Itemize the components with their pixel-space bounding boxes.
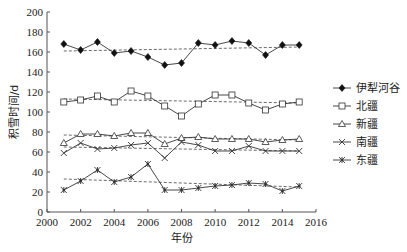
filled-diamond-marker-icon (61, 41, 67, 48)
y-tick-label: 60 (32, 146, 44, 158)
x-tick-label: 2012 (238, 216, 260, 228)
x-cross-marker-icon (162, 155, 168, 161)
y-tick-label: 160 (27, 46, 44, 58)
asterisk-marker-icon (279, 188, 285, 194)
open-triangle-marker-icon (60, 140, 67, 146)
legend-item: 东疆 (333, 154, 378, 167)
open-square-marker-icon (339, 103, 345, 109)
x-tick-label: 2004 (103, 216, 126, 228)
filled-diamond-marker-icon (128, 48, 134, 55)
filled-diamond-marker-icon (263, 52, 269, 59)
filled-diamond-marker-icon (246, 40, 252, 47)
legend-label: 新疆 (356, 117, 378, 131)
open-square-marker-icon (94, 93, 100, 99)
y-axis-title: 积雪时间/d (8, 85, 21, 140)
open-triangle-marker-icon (144, 130, 151, 136)
open-square-marker-icon (195, 101, 201, 107)
open-square-marker-icon (78, 97, 84, 103)
filled-diamond-marker-icon (78, 47, 84, 54)
y-tick-label: 40 (32, 166, 44, 178)
asterisk-marker-icon (94, 167, 100, 173)
asterisk-marker-icon (296, 183, 302, 189)
open-square-marker-icon (145, 93, 151, 99)
open-square-marker-icon (61, 99, 67, 105)
legend-item: 新疆 (333, 117, 378, 131)
open-triangle-marker-icon (128, 130, 135, 136)
open-square-marker-icon (246, 100, 252, 106)
x-tick-label: 2010 (204, 216, 227, 228)
open-triangle-marker-icon (339, 121, 346, 127)
y-tick-label: 80 (32, 126, 44, 138)
y-tick-label: 200 (27, 6, 44, 18)
legend-item: 北疆 (333, 100, 378, 113)
y-tick-label: 0 (38, 206, 44, 218)
asterisk-marker-icon (145, 161, 151, 167)
asterisk-marker-icon (78, 178, 84, 184)
x-cross-marker-icon (61, 150, 67, 156)
open-triangle-marker-icon (77, 131, 84, 137)
open-square-marker-icon (128, 88, 134, 94)
x-tick-label: 2002 (70, 216, 92, 228)
x-cross-marker-icon (246, 143, 252, 149)
open-square-marker-icon (263, 107, 269, 113)
x-tick-label: 2014 (271, 216, 294, 228)
filled-diamond-marker-icon (229, 38, 235, 45)
trend-line (64, 99, 299, 103)
legend: 伊犁河谷北疆新疆南疆东疆 (333, 81, 400, 167)
x-cross-marker-icon (78, 140, 84, 146)
data-series (60, 38, 302, 195)
open-triangle-marker-icon (94, 131, 101, 137)
asterisk-marker-icon (61, 187, 67, 193)
filled-diamond-marker-icon (162, 62, 168, 69)
y-tick-label: 20 (32, 186, 44, 198)
x-tick-label: 2006 (137, 216, 160, 228)
open-square-marker-icon (296, 99, 302, 105)
open-triangle-marker-icon (195, 134, 202, 140)
open-triangle-marker-icon (296, 136, 303, 142)
filled-diamond-marker-icon (145, 54, 151, 61)
legend-label: 南疆 (356, 136, 378, 149)
filled-diamond-marker-icon (94, 39, 100, 46)
filled-diamond-marker-icon (111, 50, 117, 57)
axes: 2000200220042006200820102012201420160204… (27, 6, 328, 228)
asterisk-marker-icon (111, 179, 117, 185)
trend-line (64, 47, 299, 51)
legend-label: 东疆 (356, 154, 378, 167)
filled-diamond-marker-icon (212, 42, 218, 49)
asterisk-marker-icon (128, 174, 134, 180)
y-tick-label: 180 (27, 26, 44, 38)
series-1 (61, 88, 302, 119)
x-axis-title: 年份 (171, 231, 193, 245)
snow-duration-line-chart: 2000200220042006200820102012201420160204… (0, 0, 407, 252)
open-square-marker-icon (179, 113, 185, 119)
open-square-marker-icon (212, 92, 218, 98)
open-square-marker-icon (111, 99, 117, 105)
y-tick-label: 120 (27, 86, 44, 98)
y-tick-label: 100 (27, 106, 44, 118)
open-square-marker-icon (229, 92, 235, 98)
legend-label: 北疆 (356, 100, 378, 113)
filled-diamond-marker-icon (296, 42, 302, 49)
series-2 (60, 130, 302, 147)
open-square-marker-icon (162, 103, 168, 109)
legend-label: 伊犁河谷 (356, 81, 400, 95)
legend-item: 南疆 (333, 136, 378, 149)
open-square-marker-icon (279, 101, 285, 107)
x-tick-label: 2016 (305, 216, 328, 228)
x-tick-label: 2008 (171, 216, 194, 228)
series-0 (61, 38, 302, 69)
legend-item: 伊犁河谷 (333, 81, 400, 95)
filled-diamond-marker-icon (339, 85, 345, 92)
series-4 (61, 161, 302, 194)
y-tick-label: 140 (27, 66, 44, 78)
